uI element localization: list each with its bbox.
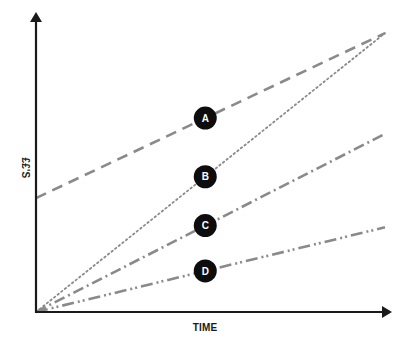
marker-label: C bbox=[202, 220, 209, 231]
x-axis-label: TIME bbox=[193, 322, 218, 333]
series-marker-d: D bbox=[194, 259, 217, 282]
series-markers: ABCD bbox=[194, 107, 217, 283]
series-marker-a: A bbox=[194, 107, 217, 130]
marker-label: A bbox=[202, 113, 209, 124]
series-marker-b: B bbox=[194, 165, 217, 188]
marker-label: B bbox=[202, 171, 209, 182]
y-axis-arrow-icon bbox=[30, 12, 42, 22]
marker-label: D bbox=[202, 266, 209, 277]
line-chart: TIME ££'S ABCD bbox=[0, 0, 406, 347]
x-axis-arrow-icon bbox=[382, 306, 392, 318]
y-axis-label: ££'S bbox=[20, 158, 31, 179]
series-marker-c: C bbox=[194, 214, 217, 237]
